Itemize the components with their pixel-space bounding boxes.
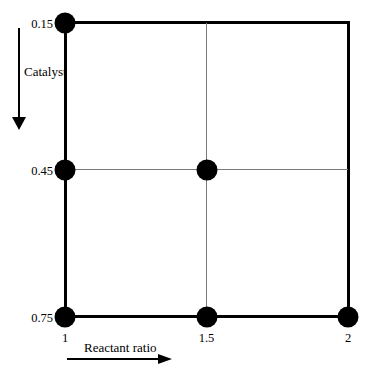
y-tick-label: 0.45 [0, 165, 53, 178]
x-tick-label: 2 [345, 332, 351, 345]
x-axis-label: Reactant ratio [84, 341, 157, 355]
x-axis-arrow [67, 358, 158, 360]
design-point [196, 307, 217, 328]
design-point [338, 307, 359, 328]
x-tick-label: 1.5 [199, 332, 215, 345]
experimental-design-figure: 0.150.450.75 11.52 Catalyst Reactant rat… [0, 0, 373, 379]
arrow-right-icon [158, 354, 172, 364]
y-axis-label: Catalyst [24, 65, 67, 79]
design-point [55, 159, 76, 180]
y-tick-label: 0.75 [0, 312, 53, 325]
arrow-down-icon [12, 117, 26, 130]
y-tick-label: 0.15 [0, 17, 53, 30]
y-axis-arrow [18, 28, 20, 117]
design-point [55, 307, 76, 328]
design-point [196, 159, 217, 180]
x-tick-label: 1 [62, 332, 68, 345]
design-point [55, 12, 76, 33]
